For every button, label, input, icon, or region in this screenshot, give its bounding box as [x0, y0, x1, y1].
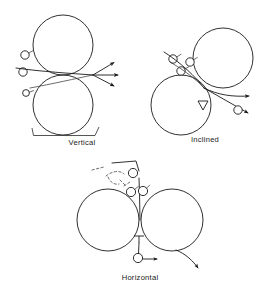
particle-icon — [186, 58, 194, 66]
dashed-mark — [92, 167, 104, 170]
exit-arrow-up — [93, 63, 114, 76]
exit-particle-icon — [234, 106, 242, 114]
particle-icon — [138, 186, 147, 195]
exit-arrow-down — [93, 75, 114, 86]
bracket-vertical — [32, 127, 99, 136]
roll-horizontal-right — [141, 189, 203, 251]
particle-icon — [126, 187, 135, 196]
nip-angle-marker-icon — [198, 101, 208, 110]
caption-inclined: Inclined — [191, 135, 219, 144]
incoming-particle-group-vertical — [19, 50, 34, 96]
figure-container: Vertical — [0, 0, 276, 295]
panel-horizontal: Horizontal — [77, 161, 203, 282]
particle-icon — [21, 51, 29, 59]
dashed-spray-group — [92, 167, 130, 186]
caption-vertical: Vertical — [69, 138, 96, 147]
web-line-lower — [30, 75, 93, 88]
web-line-horizontal-down — [139, 178, 140, 220]
caption-horizontal: Horizontal — [122, 273, 159, 282]
particle-tail — [177, 54, 181, 57]
dashed-mark — [106, 172, 124, 176]
dashed-mark — [124, 182, 130, 186]
particle-tail — [29, 91, 33, 93]
particle-tail — [135, 186, 139, 189]
panel-vertical: Vertical — [16, 15, 118, 147]
roll-inclined-lower — [151, 75, 211, 135]
nip-angle-marker-icon — [134, 236, 144, 243]
particle-icon — [128, 168, 137, 177]
particle-tail — [29, 50, 34, 53]
roll-vertical-bottom — [33, 75, 93, 135]
particle-tail — [147, 185, 150, 188]
exit-particle-icon — [133, 253, 142, 262]
roll-horizontal-left — [77, 189, 139, 251]
web-line-inclined-lower — [170, 62, 204, 88]
dashed-mark — [108, 177, 119, 184]
particle-tail — [193, 58, 197, 61]
roll-vertical-top — [33, 15, 93, 75]
exit-arrow-deflected — [176, 250, 198, 268]
panel-inclined: Inclined — [151, 28, 253, 144]
nip-configuration-figure: Vertical — [0, 0, 276, 295]
roll-inclined-upper — [193, 28, 253, 88]
particle-icon — [23, 90, 30, 97]
exit-arrow-group-vertical — [93, 63, 118, 87]
web-line-horizontal-exit — [139, 243, 140, 254]
